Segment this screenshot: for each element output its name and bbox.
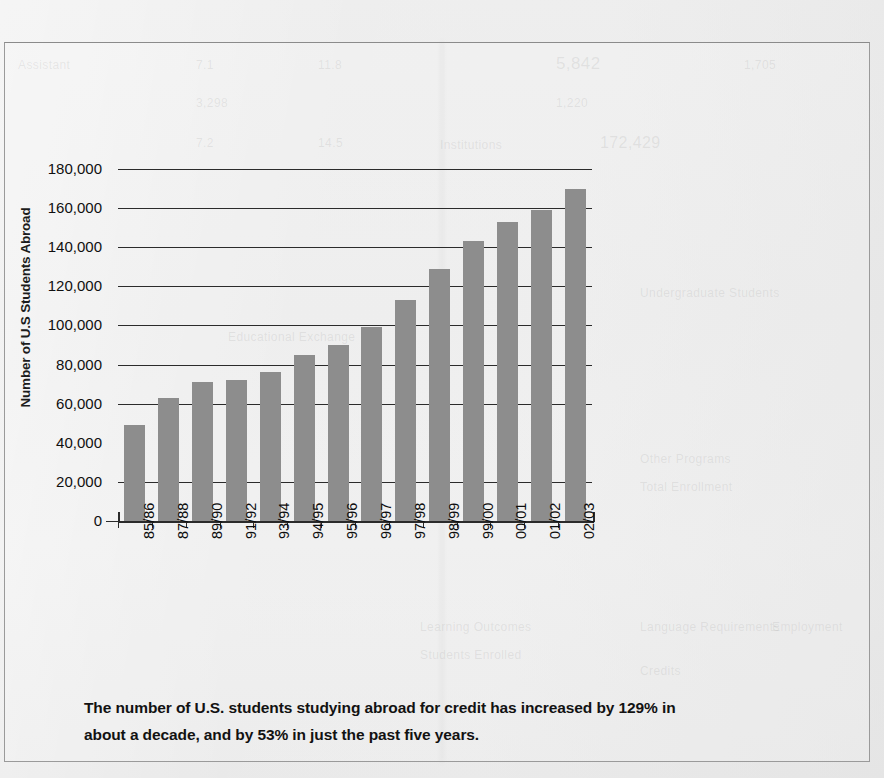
bar xyxy=(429,269,450,521)
y-axis-tick-label: 20,000 xyxy=(6,474,102,489)
y-axis-tick-label: 140,000 xyxy=(6,239,102,254)
bar xyxy=(361,327,382,521)
y-axis-tick-label: 100,000 xyxy=(6,317,102,332)
bar xyxy=(226,380,247,521)
y-axis-tick-mark xyxy=(106,521,118,522)
x-axis-tick-label: 95/96 xyxy=(344,503,360,539)
bar xyxy=(531,210,552,521)
y-axis-tick-label: 0 xyxy=(6,513,102,528)
gridline xyxy=(118,286,592,287)
bar xyxy=(294,355,315,521)
bar xyxy=(395,300,416,521)
bar xyxy=(328,345,349,521)
x-axis-tick-label: 97/98 xyxy=(412,503,428,539)
caption-line-1: The number of U.S. students studying abr… xyxy=(84,694,784,721)
y-axis-tick-label: 80,000 xyxy=(6,357,102,372)
x-axis-tick-label: 93/94 xyxy=(276,503,292,539)
gridline xyxy=(118,208,592,209)
x-axis-tick-label: 91/92 xyxy=(243,503,259,539)
chart-caption: The number of U.S. students studying abr… xyxy=(84,694,784,748)
x-axis-tick-label: 98/99 xyxy=(446,503,462,539)
bar xyxy=(260,372,281,521)
gridline xyxy=(118,404,592,405)
gridline xyxy=(118,169,592,170)
x-axis-tick-label: 89/90 xyxy=(209,503,225,539)
bar xyxy=(463,241,484,521)
bar xyxy=(497,222,518,521)
x-axis-tick-label: 94/95 xyxy=(310,503,326,539)
gridline xyxy=(118,482,592,483)
x-axis-tick-label: 85/86 xyxy=(141,503,157,539)
gridline xyxy=(118,247,592,248)
y-axis-tick-label: 120,000 xyxy=(6,278,102,293)
x-axis-tick-label: 87/88 xyxy=(175,503,191,539)
gridline xyxy=(118,365,592,366)
y-axis-tick-label: 40,000 xyxy=(6,435,102,450)
plot-area xyxy=(118,169,592,522)
x-axis-tick-mark xyxy=(118,521,119,528)
x-axis-tick-label: 02/03 xyxy=(581,503,597,539)
y-axis-tick-label: 160,000 xyxy=(6,200,102,215)
x-axis-tick-label: 01/02 xyxy=(547,503,563,539)
x-axis-tick-label: 00/01 xyxy=(513,503,529,539)
x-axis-tick-label: 96/97 xyxy=(378,503,394,539)
bar xyxy=(192,382,213,521)
y-axis-tick-label: 60,000 xyxy=(6,396,102,411)
gridline xyxy=(118,325,592,326)
x-axis-tick-label: 99/00 xyxy=(480,503,496,539)
y-axis-tick-label: 180,000 xyxy=(6,161,102,176)
bar xyxy=(565,189,586,521)
bar-chart: Number of U.S Students Abroad 180,000160… xyxy=(0,0,884,778)
caption-line-2: about a decade, and by 53% in just the p… xyxy=(84,721,784,748)
